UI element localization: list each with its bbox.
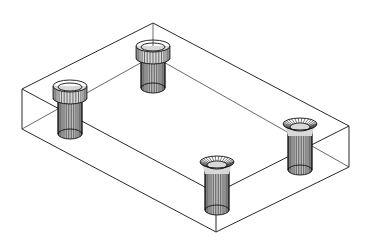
fastener-back: [136, 40, 170, 93]
isometric-drawing: [0, 0, 370, 247]
fasteners: [53, 40, 317, 215]
fastener-front: [200, 156, 234, 215]
fastener-left: [53, 80, 87, 139]
fastener-right: [283, 118, 317, 175]
